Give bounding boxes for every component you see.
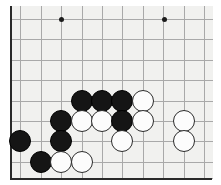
black-stone[interactable]	[30, 151, 52, 173]
board-edge-bottom	[10, 178, 212, 180]
black-stone[interactable]	[111, 90, 133, 112]
grid-line-horizontal-2	[10, 60, 213, 61]
grid-line-vertical-1	[20, 6, 21, 178]
white-stone[interactable]	[71, 110, 93, 132]
white-stone[interactable]	[132, 110, 154, 132]
hoshi-right-icon	[162, 17, 167, 22]
grid-line-horizontal-1	[10, 39, 213, 40]
white-stone[interactable]	[132, 90, 154, 112]
board-edge-left	[10, 6, 12, 180]
white-stone[interactable]	[91, 110, 113, 132]
black-stone[interactable]	[91, 90, 113, 112]
grid-line-horizontal-0	[10, 19, 213, 20]
white-stone[interactable]	[173, 110, 195, 132]
white-stone[interactable]	[173, 130, 195, 152]
grid-line-vertical-10	[204, 6, 205, 178]
black-stone[interactable]	[71, 90, 93, 112]
white-stone[interactable]	[50, 151, 72, 173]
go-board-diagram	[0, 0, 221, 185]
grid-line-vertical-8	[163, 6, 164, 178]
hoshi-left-icon	[59, 17, 64, 22]
grid-line-horizontal-3	[10, 80, 213, 81]
grid-line-vertical-9	[184, 6, 185, 178]
white-stone[interactable]	[71, 151, 93, 173]
